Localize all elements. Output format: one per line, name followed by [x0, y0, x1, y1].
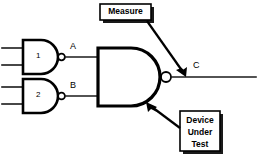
gate-2-number: 2 — [36, 91, 40, 100]
measure-label: Measure — [100, 7, 151, 17]
gate-1-output-bubble — [58, 54, 65, 61]
gate-1-number: 1 — [36, 52, 40, 61]
gate-2-output-bubble — [58, 93, 65, 100]
dut-label-line-3: Test — [180, 140, 220, 150]
gate-2-body[interactable] — [23, 79, 58, 113]
dut-arrow-line — [152, 107, 180, 128]
dut-label-line-2: Under — [180, 128, 220, 138]
dut-label-line-1: Device — [180, 116, 220, 126]
gate-3-output-bubble — [161, 72, 171, 82]
gate-1-body[interactable] — [23, 40, 58, 74]
diagram-canvas: 1 2 A B C Measure Device Under Test — [0, 0, 257, 164]
gate-3-body[interactable] — [98, 48, 160, 106]
signal-label-b: B — [70, 80, 76, 90]
signal-label-c: C — [193, 60, 200, 70]
signal-label-a: A — [70, 41, 76, 51]
